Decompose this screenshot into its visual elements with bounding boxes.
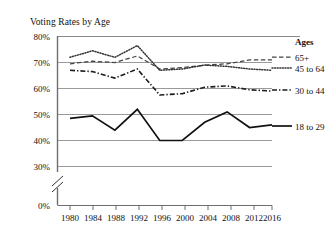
x-tick-label-1984: 1984 (84, 213, 103, 223)
series-line-30-to-44 (70, 69, 272, 95)
legend-label-45-to-64: 45 to 64 (295, 64, 325, 74)
y-tick-label-60: 60% (34, 84, 51, 94)
x-tick-label-2008: 2008 (222, 213, 241, 223)
y-tick-label-80: 80% (34, 32, 51, 42)
x-tick-marks (70, 206, 272, 211)
x-tick-label-2004: 2004 (199, 213, 218, 223)
legend-label-30-to-44: 30 to 44 (295, 86, 325, 96)
series-line-18-to-29 (70, 109, 272, 140)
x-tick-label-2016: 2016 (263, 213, 282, 223)
chart-svg: 80% 70% 60% 50% 40% 30% 0% 1980 1984 198… (0, 0, 326, 243)
x-tick-label-1988: 1988 (107, 213, 126, 223)
y-tick-label-50: 50% (34, 110, 51, 120)
x-tick-label-2012: 2012 (245, 213, 263, 223)
legend-header: Ages (295, 37, 314, 47)
y-tick-label-0: 0% (38, 201, 51, 211)
series-line-45-to-64 (70, 46, 272, 71)
legend-leader-lines (272, 57, 292, 126)
y-tick-label-30: 30% (34, 162, 51, 172)
voting-rates-figure: Voting Rates by Age 80% 70% 60% 50% 40% … (0, 0, 326, 243)
axis-break-mark-upper (52, 176, 63, 186)
x-tick-label-1996: 1996 (153, 213, 172, 223)
x-tick-label-1992: 1992 (130, 213, 148, 223)
x-tick-label-1980: 1980 (61, 213, 80, 223)
y-tick-label-40: 40% (34, 136, 51, 146)
legend-label-18-to-29: 18 to 29 (295, 122, 325, 132)
y-tick-label-70: 70% (34, 58, 51, 68)
legend-label-65-plus: 65+ (295, 53, 309, 63)
x-tick-label-2000: 2000 (176, 213, 195, 223)
